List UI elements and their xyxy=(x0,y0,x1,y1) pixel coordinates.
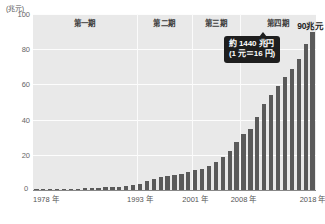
bar xyxy=(283,77,287,190)
callout-line-2: (1 元＝16 円) xyxy=(229,49,275,59)
x-axis-tick-label: 2008 年 xyxy=(231,193,257,204)
x-axis-baseline xyxy=(33,190,316,191)
bar xyxy=(165,176,169,190)
bar xyxy=(248,129,252,190)
bar xyxy=(241,134,245,190)
period-band-label: 第三期 xyxy=(205,17,227,28)
x-axis-tick-label: 1978 年 xyxy=(33,193,59,204)
y-axis-tick-label: 40 xyxy=(22,115,30,124)
bar xyxy=(221,157,225,190)
bar xyxy=(228,151,232,190)
bar xyxy=(276,86,280,190)
bar xyxy=(207,166,211,190)
bar xyxy=(159,177,163,190)
y-axis-zero-label: 0 xyxy=(24,184,28,193)
bar xyxy=(255,117,259,190)
period-band-label: 第二期 xyxy=(153,17,175,28)
y-axis-tick-label: 100 xyxy=(17,10,30,19)
x-axis-tick-label: 2001 年 xyxy=(182,193,208,204)
bar xyxy=(152,179,156,190)
bar xyxy=(290,69,294,190)
x-axis-tick-label: 2018 年 xyxy=(300,193,325,204)
y-axis-tick-label: 80 xyxy=(22,45,30,54)
bar xyxy=(193,170,197,190)
bar xyxy=(145,181,149,190)
bar xyxy=(310,32,314,190)
bar xyxy=(297,59,301,190)
peak-value-label: 90兆元 xyxy=(297,19,324,31)
conversion-callout: 約 1440 兆円 (1 元＝16 円) xyxy=(224,36,280,63)
x-axis-tick-label: 1993 年 xyxy=(127,193,153,204)
bar xyxy=(172,175,176,190)
bar xyxy=(269,95,273,190)
bar xyxy=(200,169,204,190)
period-band-label: 第四期 xyxy=(267,17,289,28)
bar xyxy=(234,142,238,190)
bar xyxy=(304,44,308,190)
period-band-label: 第一期 xyxy=(74,17,96,28)
bar xyxy=(214,162,218,190)
callout-pointer-icon xyxy=(259,32,267,37)
y-axis-tick-label: 20 xyxy=(22,150,30,159)
bar xyxy=(186,172,190,190)
bar xyxy=(179,174,183,190)
y-axis-tick-label: 60 xyxy=(22,80,30,89)
bar xyxy=(262,104,266,190)
callout-line-1: 約 1440 兆円 xyxy=(229,39,275,49)
